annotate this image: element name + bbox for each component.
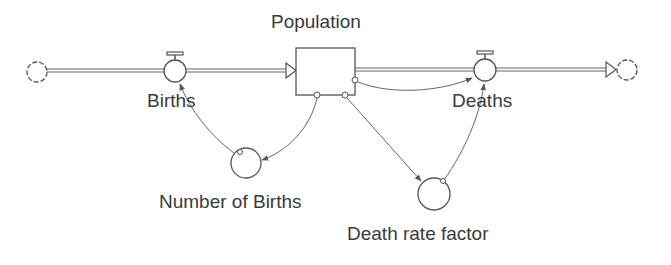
death-rate-factor-label: Death rate factor [347, 224, 489, 243]
population-stock-box[interactable] [296, 48, 355, 95]
sink-cloud-icon [617, 60, 637, 80]
births-valve-icon[interactable] [164, 52, 186, 82]
number-of-births-aux[interactable] [231, 148, 261, 178]
link-origin-dot [352, 77, 358, 83]
number-of-births-label: Number of Births [159, 192, 302, 211]
deaths-label: Deaths [452, 91, 512, 110]
births-label: Births [147, 91, 196, 110]
population-label: Population [271, 12, 361, 31]
link-population-to-number-of-births [262, 98, 317, 160]
link-population-to-deaths [358, 78, 472, 90]
diagram-graphics [0, 0, 671, 265]
link-population-to-death-rate-factor [347, 98, 421, 181]
stock-flow-diagram: Population Births Deaths Number of Birth… [0, 0, 671, 265]
source-cloud-icon [27, 62, 47, 82]
link-origin-dot [314, 92, 320, 98]
link-origin-dot [342, 92, 348, 98]
deaths-valve-icon[interactable] [474, 51, 496, 81]
